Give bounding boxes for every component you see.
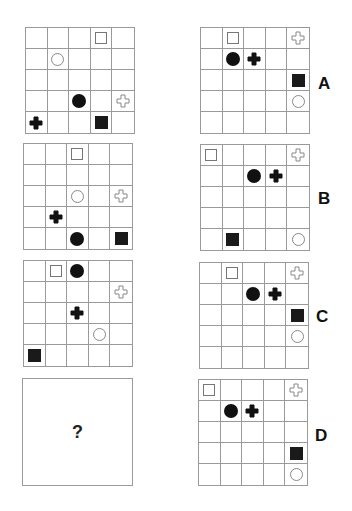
open-circle-icon	[291, 330, 304, 343]
filled-circle-icon	[70, 232, 84, 246]
open-square-icon	[71, 148, 83, 160]
option-label-d[interactable]: D	[315, 426, 327, 446]
grid-cell	[242, 443, 264, 464]
grid-cell	[67, 282, 89, 303]
grid-cell	[89, 345, 111, 366]
grid-cell	[67, 303, 89, 324]
grid-cell	[110, 186, 132, 207]
grid-cell	[112, 112, 134, 133]
grid-cell	[110, 228, 132, 249]
grid-cell	[266, 112, 288, 133]
grid-cell	[110, 165, 132, 186]
grid-cell	[266, 229, 288, 250]
grid-cell	[242, 464, 264, 485]
open-square-icon	[95, 32, 107, 44]
grid-cell	[67, 261, 89, 282]
grid-cell	[89, 186, 111, 207]
filled-square-icon	[291, 309, 304, 322]
grid-cell	[89, 303, 111, 324]
grid-cell	[26, 112, 48, 133]
filled-cross-icon	[269, 169, 283, 183]
grid-cell	[222, 326, 244, 347]
option-grid-a[interactable]	[200, 27, 310, 134]
filled-circle-icon	[72, 94, 86, 108]
grid-cell	[244, 91, 266, 112]
grid-cell	[26, 70, 48, 91]
option-label-b[interactable]: B	[318, 189, 330, 209]
grid-cell	[286, 326, 308, 347]
open-circle-icon	[51, 53, 64, 66]
sequence-grid-1	[25, 27, 135, 134]
grid-cell	[201, 145, 223, 166]
grid-cell	[112, 91, 134, 112]
grid-cell	[223, 187, 245, 208]
filled-circle-icon	[226, 52, 240, 66]
filled-square-icon	[28, 349, 41, 362]
grid-cell	[67, 144, 89, 165]
open-square-icon	[50, 265, 62, 277]
grid-cell	[199, 443, 221, 464]
grid-cell	[243, 347, 265, 368]
grid-cell	[199, 380, 221, 401]
grid-cell	[287, 145, 309, 166]
grid-cell	[286, 263, 308, 284]
grid-cell	[244, 166, 266, 187]
grid-cell	[46, 324, 68, 345]
grid-cell	[266, 91, 288, 112]
grid-cell	[285, 422, 307, 443]
grid-cell	[110, 207, 132, 228]
grid-cell	[285, 464, 307, 485]
grid-cell	[264, 380, 286, 401]
grid-cell	[286, 305, 308, 326]
grid-cell	[243, 263, 265, 284]
grid-cell	[221, 422, 243, 443]
grid-cell	[46, 144, 68, 165]
grid-cell	[244, 208, 266, 229]
open-square-icon	[205, 149, 217, 161]
grid-cell	[243, 284, 265, 305]
grid-cell	[89, 324, 111, 345]
grid-cell	[110, 261, 132, 282]
grid-cell	[91, 91, 113, 112]
grid-cell	[89, 144, 111, 165]
open-circle-icon	[290, 468, 303, 481]
grid-cell	[244, 229, 266, 250]
grid-cell	[242, 422, 264, 443]
grid-cell	[110, 144, 132, 165]
filled-circle-icon	[247, 169, 261, 183]
grid-cell	[265, 326, 287, 347]
grid-cell	[69, 91, 91, 112]
filled-circle-icon	[224, 404, 238, 418]
grid-cell	[285, 380, 307, 401]
grid-cell	[24, 207, 46, 228]
grid-cell	[201, 112, 223, 133]
option-label-c[interactable]: C	[316, 307, 328, 327]
open-circle-icon	[292, 95, 305, 108]
grid-cell	[287, 28, 309, 49]
open-circle-icon	[93, 328, 106, 341]
grid-cell	[286, 347, 308, 368]
option-grid-d[interactable]	[198, 379, 308, 486]
grid-cell	[69, 28, 91, 49]
grid-cell	[67, 186, 89, 207]
option-grid-b[interactable]	[200, 144, 310, 251]
grid-cell	[24, 303, 46, 324]
grid-cell	[221, 401, 243, 422]
grid-cell	[200, 263, 222, 284]
grid-cell	[89, 261, 111, 282]
open-circle-icon	[71, 190, 84, 203]
option-grid-c[interactable]	[199, 262, 309, 369]
grid-cell	[110, 345, 132, 366]
grid-cell	[244, 28, 266, 49]
grid-cell	[24, 324, 46, 345]
grid-cell	[221, 464, 243, 485]
filled-cross-icon	[70, 306, 84, 320]
grid-cell	[48, 91, 70, 112]
grid-cell	[91, 112, 113, 133]
grid-cell	[222, 263, 244, 284]
grid-cell	[243, 305, 265, 326]
grid-cell	[46, 303, 68, 324]
option-label-a[interactable]: A	[318, 74, 330, 94]
grid-cell	[67, 345, 89, 366]
grid-cell	[24, 165, 46, 186]
